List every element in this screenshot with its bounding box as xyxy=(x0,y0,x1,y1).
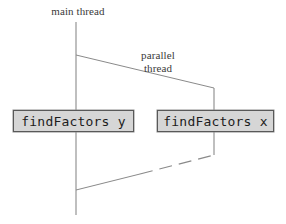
join-diagonal-dashed-segment xyxy=(140,155,214,174)
join-diagonal-solid-segment xyxy=(76,174,140,190)
call-box-find-factors-x: findFactors x xyxy=(157,110,274,132)
parallel-thread-label: parallel thread xyxy=(98,49,218,75)
thread-diagram: main thread parallel thread findFactors … xyxy=(0,0,286,224)
parallel-thread-label-line1: parallel xyxy=(98,49,218,62)
main-thread-label: main thread xyxy=(0,5,156,17)
parallel-thread-label-line2: thread xyxy=(98,62,218,75)
call-box-find-factors-y: findFactors y xyxy=(13,110,134,132)
